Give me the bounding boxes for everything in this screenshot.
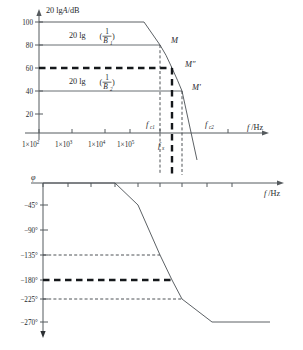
svg-text:1×103: 1×103: [55, 139, 73, 149]
phase-ytick-225: −225°: [20, 296, 38, 304]
phase-ytick-270: −270°: [20, 319, 38, 327]
label-point-M-prime: M′: [191, 83, 201, 92]
svg-text:B: B: [103, 36, 108, 45]
phase-y-axis-arrow: [40, 331, 45, 338]
label-point-M: M: [170, 36, 179, 45]
svg-text:20 lg: 20 lg: [69, 31, 86, 40]
magnitude-xaxis-label: f /Hz: [247, 123, 264, 132]
svg-text:(: (: [100, 78, 103, 87]
magnitude-xtick-label-1: 1×103: [55, 139, 73, 149]
phase-plot: −45° −90° −135° −180° −225° −270° φ f /H…: [20, 173, 284, 338]
phase-response-curve: [43, 183, 270, 322]
svg-text:20 lgA/dB: 20 lgA/dB: [46, 6, 80, 15]
label-fc2: f c2: [205, 120, 214, 130]
magnitude-xtick-label-2: 1×104: [88, 139, 106, 149]
y-axis-arrow: [36, 9, 41, 16]
phase-xaxis-label: f /Hz: [264, 189, 281, 198]
svg-text:): ): [112, 78, 115, 87]
phase-ytick-180: −180°: [20, 277, 38, 285]
phase-y-ticks: [40, 205, 48, 322]
svg-text:1×104: 1×104: [88, 139, 106, 149]
svg-text:1: 1: [105, 27, 109, 36]
magnitude-plot: 100 80 60 40 20 20 lgA/dB 1×102: [22, 6, 269, 175]
svg-text:1×102: 1×102: [22, 139, 40, 149]
magnitude-ytick-80: 80: [26, 42, 34, 50]
label-point-M-double-prime: M″: [184, 60, 196, 69]
label-fx: f x: [158, 141, 165, 151]
magnitude-xtick-label-3: 1×105: [117, 139, 135, 149]
gain-label-b1: 20 lg ( 1 B 1 ): [69, 27, 115, 46]
svg-text:c1: c1: [150, 124, 155, 130]
magnitude-ytick-20: 20: [26, 111, 34, 119]
phase-x-ticks: [43, 183, 232, 187]
svg-text:f /Hz: f /Hz: [247, 123, 264, 132]
phase-ytick-45: −45°: [24, 202, 38, 210]
magnitude-ytick-100: 100: [22, 19, 33, 27]
magnitude-xtick-label-0: 1×102: [22, 139, 40, 149]
phase-ytick-135: −135°: [20, 252, 38, 260]
svg-text:): ): [112, 32, 115, 41]
magnitude-ytick-60: 60: [26, 65, 34, 73]
magnitude-x-axis: [25, 130, 269, 135]
phase-ytick-90: −90°: [24, 227, 38, 235]
magnitude-x-ticks: [39, 129, 228, 133]
phase-x-axis-arrow: [277, 180, 284, 185]
svg-text:x: x: [161, 145, 165, 151]
svg-text:1×105: 1×105: [117, 139, 135, 149]
phase-yaxis-label: φ: [31, 173, 36, 182]
svg-text:f /Hz: f /Hz: [264, 189, 281, 198]
svg-text:20 lg: 20 lg: [69, 77, 86, 86]
phase-y-axis: [40, 183, 45, 338]
svg-text:c2: c2: [209, 124, 214, 130]
figure-svg: 100 80 60 40 20 20 lgA/dB 1×102: [0, 0, 303, 350]
svg-text:1: 1: [105, 73, 109, 82]
svg-text:B: B: [103, 82, 108, 91]
bode-plot-figure: 100 80 60 40 20 20 lgA/dB 1×102: [0, 0, 303, 350]
gain-label-b2: 20 lg ( 1 B 2 ): [69, 73, 115, 92]
svg-text:(: (: [100, 32, 103, 41]
magnitude-yaxis-label: 20 lgA/dB: [46, 6, 80, 15]
label-fc1: f c1: [146, 120, 155, 130]
magnitude-y-axis: [36, 9, 41, 140]
magnitude-ytick-40: 40: [26, 88, 34, 96]
